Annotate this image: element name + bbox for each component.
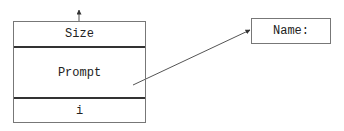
prompt-to-name-arrow [133, 30, 250, 85]
name-label: Name: [273, 24, 309, 38]
memory-stack: Size Prompt i [13, 21, 146, 123]
size-cell: Size [14, 22, 145, 48]
prompt-label: Prompt [58, 66, 101, 80]
size-label: Size [65, 27, 94, 41]
i-cell: i [14, 99, 145, 122]
i-label: i [76, 104, 83, 118]
name-box: Name: [251, 18, 331, 44]
prompt-cell: Prompt [14, 48, 145, 99]
